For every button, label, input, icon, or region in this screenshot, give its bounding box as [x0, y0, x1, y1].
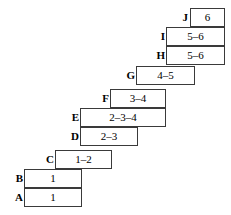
step-label-d: D [61, 127, 79, 146]
step-label-h: H [147, 46, 165, 65]
step-row: D2–3 [0, 127, 231, 146]
step-box-c: 1–2 [55, 150, 112, 169]
step-label-f: F [91, 89, 109, 108]
step-box-d: 2–3 [80, 127, 138, 146]
step-row: I5–6 [0, 27, 231, 46]
step-label-e: E [61, 108, 79, 127]
step-row: H5–6 [0, 46, 231, 65]
step-box-f: 3–4 [110, 89, 166, 108]
step-box-j: 6 [190, 8, 225, 27]
step-row: A1 [0, 188, 231, 207]
step-row: J6 [0, 8, 231, 27]
step-row: F3–4 [0, 89, 231, 108]
step-box-a: 1 [24, 188, 82, 207]
step-label-c: C [36, 150, 54, 169]
step-box-i: 5–6 [166, 27, 225, 46]
step-row: C1–2 [0, 150, 231, 169]
step-label-a: A [5, 188, 23, 207]
step-label-b: B [5, 169, 23, 188]
step-label-j: J [170, 8, 188, 27]
step-box-g: 4–5 [136, 66, 195, 85]
staircase-diagram: J6I5–6H5–6G4–5F3–4E2–3–4D2–3C1–2B1A1 [0, 0, 231, 215]
step-box-e: 2–3–4 [80, 108, 166, 127]
step-label-i: I [147, 27, 165, 46]
step-box-h: 5–6 [166, 46, 225, 65]
step-box-b: 1 [24, 169, 82, 188]
step-label-g: G [117, 66, 135, 85]
step-row: G4–5 [0, 66, 231, 85]
step-row: B1 [0, 169, 231, 188]
step-row: E2–3–4 [0, 108, 231, 127]
